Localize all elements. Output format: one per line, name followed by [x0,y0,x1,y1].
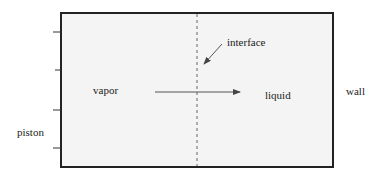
liquid-label: liquid [265,90,291,101]
vapor-liquid-diagram [0,0,380,178]
vapor-label: vapor [93,85,118,96]
piston-label: piston [17,127,44,138]
piston-ticks [53,32,61,148]
wall-label: wall [346,86,365,97]
interface-label: interface [227,37,265,48]
